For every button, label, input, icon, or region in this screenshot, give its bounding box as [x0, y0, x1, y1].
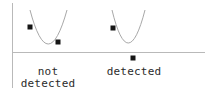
data-point-2 [56, 40, 61, 45]
data-point-1 [28, 25, 33, 30]
parabola-not-detected [30, 10, 67, 44]
data-point-3 [111, 26, 116, 31]
caption-not-detected: not detected [0, 66, 96, 90]
data-point-4 [131, 56, 136, 61]
caption-detected: detected [88, 66, 180, 78]
parabola-detected [112, 10, 145, 43]
detection-curve-figure: not detected detected [0, 0, 214, 102]
